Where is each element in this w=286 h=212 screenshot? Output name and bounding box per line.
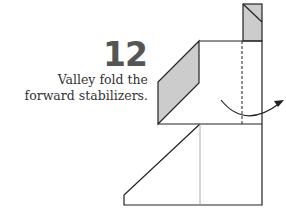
upper-panel xyxy=(199,41,262,124)
tab-stabilizer xyxy=(243,4,262,41)
lower-panel xyxy=(124,124,262,205)
fold-arrow-icon xyxy=(221,100,284,116)
fold-diagram xyxy=(0,0,286,212)
forward-stabilizer-flap xyxy=(158,41,199,124)
